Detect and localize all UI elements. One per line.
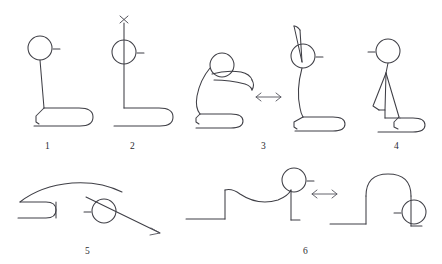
leg-loop — [18, 202, 56, 218]
leg-loop — [114, 108, 173, 126]
arrow-panel-6 — [312, 190, 337, 198]
body-arch — [366, 174, 411, 196]
arrow-panel-3 — [256, 93, 281, 101]
panel-6-right-drawing — [330, 174, 426, 226]
head-circle — [92, 199, 116, 223]
head-circle — [402, 200, 426, 224]
x-mark-icon — [120, 16, 128, 23]
head-circle — [376, 39, 400, 63]
arm-upper — [212, 71, 252, 80]
knee-hook — [394, 117, 399, 129]
panel-6-left-drawing — [186, 168, 314, 220]
figure-illustration — [0, 0, 442, 264]
panel-label-1: 1 — [45, 142, 50, 152]
panel-label-5: 5 — [85, 247, 90, 257]
torso-line — [40, 60, 44, 108]
arm-diagonal — [86, 197, 160, 233]
panel-label-6: 6 — [303, 247, 308, 257]
panel-label-2: 2 — [130, 142, 135, 152]
panel-3-left-drawing — [196, 53, 254, 128]
panel-1-drawing — [28, 36, 93, 126]
hip-arch — [225, 190, 291, 203]
back-curve — [196, 68, 210, 114]
knee-hook — [294, 117, 303, 129]
hand — [252, 80, 254, 90]
torso-curve — [298, 68, 303, 117]
leg-loop — [196, 114, 243, 128]
panel-label-4: 4 — [394, 142, 399, 152]
knee-hook — [36, 108, 44, 124]
torso-line — [386, 73, 399, 117]
arm-front — [373, 73, 386, 110]
arm-lower — [214, 80, 252, 90]
figure-canvas: 1 2 3 4 5 6 — [0, 0, 442, 264]
panel-2-drawing — [112, 16, 173, 126]
head-circle — [291, 44, 315, 68]
neck-line — [386, 63, 388, 73]
leg-loop — [34, 108, 93, 126]
leg-loop — [295, 117, 345, 131]
arm-back — [379, 73, 386, 110]
head-circle — [282, 168, 306, 192]
leg-loop — [378, 118, 425, 132]
panel-label-3: 3 — [261, 142, 266, 152]
panel-3-right-drawing — [291, 26, 345, 131]
panel-4-drawing — [368, 39, 425, 132]
head-circle — [28, 36, 52, 60]
panel-5-drawing — [18, 183, 160, 235]
knee-hook — [196, 114, 200, 124]
